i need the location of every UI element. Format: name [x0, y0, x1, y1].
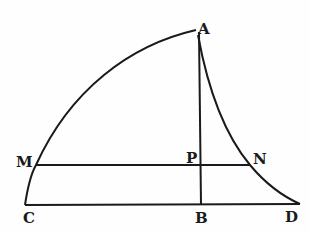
- geometry-diagram: A M P N C B D: [0, 0, 309, 234]
- label-a: A: [198, 22, 210, 37]
- segment-ab: [199, 32, 201, 205]
- diagram-figure: [0, 0, 309, 234]
- curve-and: [198, 35, 300, 204]
- curve-cma: [25, 30, 196, 205]
- label-p: P: [186, 151, 197, 166]
- label-b: B: [195, 211, 208, 226]
- label-n: N: [253, 152, 267, 167]
- segment-cd: [25, 204, 300, 205]
- label-d: D: [285, 210, 298, 225]
- label-m: M: [16, 155, 33, 170]
- label-c: C: [23, 211, 35, 226]
